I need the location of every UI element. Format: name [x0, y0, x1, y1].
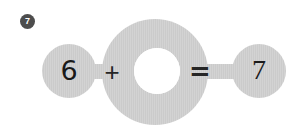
- equals-operator: =: [186, 58, 214, 84]
- left-operand-value: 6: [42, 57, 96, 84]
- missing-operand-blank[interactable]: [134, 48, 180, 94]
- result-value: 7: [232, 56, 286, 84]
- plus-operator: +: [99, 59, 125, 85]
- worksheet-exercise-page: 7: [0, 0, 288, 140]
